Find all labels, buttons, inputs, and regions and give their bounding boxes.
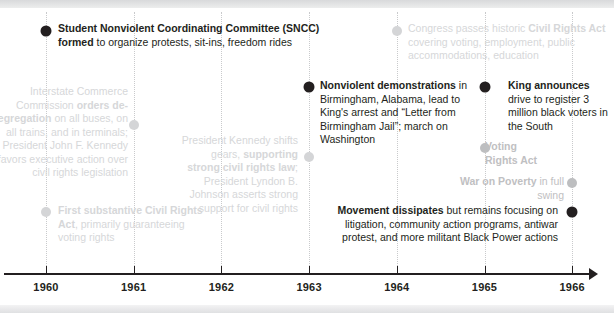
axis-tick-1960 xyxy=(46,266,47,274)
axis-year-label-1962: 1962 xyxy=(209,281,234,293)
event-dot-movement-dissipates[interactable] xyxy=(567,207,578,218)
event-lead-congress-passes-civil-rights-act: Congress passes historic xyxy=(408,22,528,34)
axis-year-label-1965: 1965 xyxy=(472,281,497,293)
axis-tick-1961 xyxy=(134,266,135,274)
timeline-figure: 1960196119621963196419651966 Student Non… xyxy=(0,0,614,313)
event-label-war-on-poverty: War on Poverty in full swing xyxy=(452,175,564,202)
event-label-king-announces-voter-drive: King announces drive to register 3 milli… xyxy=(508,79,612,133)
event-highlight-voting-rights-act: Voting Rights Act xyxy=(485,140,537,166)
event-label-movement-dissipates: Movement dissipates but remains focusing… xyxy=(330,204,558,245)
axis-year-label-1960: 1960 xyxy=(33,281,58,293)
event-dot-kennedy-shifts-gears[interactable] xyxy=(304,152,314,162)
event-highlight-war-on-poverty: War on Poverty xyxy=(460,175,537,187)
event-label-voting-rights-act: Voting Rights Act xyxy=(485,140,545,167)
top-edge-band xyxy=(0,0,614,8)
event-body-first-substantive-civil-rights-act: , primarily guaranteeing voting rights xyxy=(58,218,185,244)
timeline-axis-arrow-icon xyxy=(589,268,598,280)
axis-year-label-1963: 1963 xyxy=(296,281,321,293)
event-label-nonviolent-demonstrations: Nonviolent demonstrations in Birmingham,… xyxy=(320,79,485,147)
event-dot-icc-orders-desegregation[interactable] xyxy=(129,120,139,130)
event-highlight-movement-dissipates: Movement dissipates xyxy=(337,204,443,216)
axis-tick-1965 xyxy=(485,266,486,274)
event-dot-sncc-formed[interactable] xyxy=(41,26,52,37)
event-label-congress-passes-civil-rights-act: Congress passes historic Civil Rights Ac… xyxy=(408,22,608,63)
event-highlight-kennedy-shifts-gears: supporting strong civil rights law xyxy=(187,148,298,174)
gridline-1963 xyxy=(309,12,311,274)
axis-tick-1963 xyxy=(309,266,310,274)
event-dot-nonviolent-demonstrations[interactable] xyxy=(304,82,315,93)
axis-year-label-1961: 1961 xyxy=(121,281,146,293)
axis-year-label-1964: 1964 xyxy=(384,281,409,293)
event-body-war-on-poverty: in full swing xyxy=(537,175,564,201)
event-dot-king-announces-voter-drive[interactable] xyxy=(479,82,490,93)
event-label-kennedy-shifts-gears: President Kennedy shifts gears, supporti… xyxy=(180,134,298,215)
axis-tick-1962 xyxy=(221,266,222,274)
event-label-sncc-formed: Student Nonviolent Coordinating Committe… xyxy=(58,22,326,49)
timeline-axis-line xyxy=(4,273,592,275)
event-body-congress-passes-civil-rights-act: covering voting, employment, public acco… xyxy=(408,36,575,62)
event-dot-first-substantive-civil-rights-act[interactable] xyxy=(41,207,51,217)
event-body-king-announces-voter-drive: drive to register 3 million black voters… xyxy=(508,93,608,132)
event-body-sncc-formed: to organize protests, sit-ins, freedom r… xyxy=(94,36,292,48)
axis-year-label-1966: 1966 xyxy=(560,281,585,293)
event-highlight-nonviolent-demonstrations: Nonviolent demonstrations xyxy=(320,79,456,91)
event-dot-war-on-poverty[interactable] xyxy=(567,178,577,188)
axis-tick-1964 xyxy=(397,266,398,274)
bottom-edge-band xyxy=(0,305,614,313)
event-highlight-king-announces-voter-drive: King announces xyxy=(508,79,590,91)
event-dot-congress-passes-civil-rights-act[interactable] xyxy=(392,26,402,36)
event-label-icc-orders-desegregation: Interstate Commerce Commission orders de… xyxy=(0,85,128,180)
event-highlight-congress-passes-civil-rights-act: Civil Rights Act xyxy=(528,22,605,34)
axis-tick-1966 xyxy=(572,266,573,274)
